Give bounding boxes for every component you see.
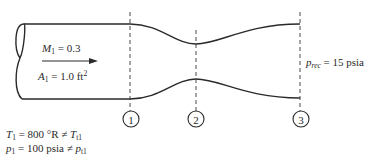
flow-arrow-icon xyxy=(42,58,98,64)
nozzle-diagram: 1 2 3 M1 = 0.3 A1 = 1.0 ft2 prec = 15 ps… xyxy=(0,0,377,161)
station-label-2: 2 xyxy=(193,114,199,126)
station-marker-1: 1 xyxy=(123,111,139,127)
inlet-pressure-label: p1 = 100 psia ≠ pt1 xyxy=(5,142,87,156)
duct-bottom-wall xyxy=(22,79,300,99)
pipe-break-symbol xyxy=(16,24,25,99)
station-label-3: 3 xyxy=(298,114,304,126)
station-marker-3: 3 xyxy=(293,111,309,127)
receiver-pressure-label: prec = 15 psia xyxy=(305,56,364,70)
inlet-area-label: A1 = 1.0 ft2 xyxy=(37,69,87,84)
station-marker-2: 2 xyxy=(188,111,204,127)
station-label-1: 1 xyxy=(128,114,134,126)
inlet-temperature-label: T1 = 800 °R ≠ Tt1 xyxy=(6,128,82,142)
duct-top-wall xyxy=(24,24,300,44)
inlet-mach-label: M1 = 0.3 xyxy=(41,42,81,56)
